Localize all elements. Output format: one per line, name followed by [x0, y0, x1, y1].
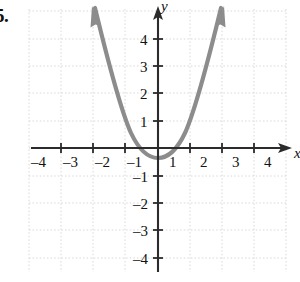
x-tick-label-4: 4: [264, 155, 272, 170]
x-tick-label--1: –1: [127, 155, 142, 170]
y-tick-label-1: 1: [140, 115, 148, 130]
x-tick-label--3: –3: [63, 155, 78, 170]
y-tick-label--4: –4: [133, 252, 148, 267]
figure-container: 5.: [0, 0, 300, 282]
y-tick-label--3: –3: [133, 224, 148, 239]
y-axis: [153, 6, 163, 272]
x-tick-label-2: 2: [200, 155, 208, 170]
y-tick-label-3: 3: [140, 60, 148, 75]
x-tick-label--4: –4: [31, 155, 46, 170]
x-axis-label: x: [294, 146, 300, 161]
y-tick-label-4: 4: [140, 33, 148, 48]
coordinate-plane: [0, 0, 300, 282]
x-tick-label-3: 3: [232, 155, 240, 170]
y-tick-label-2: 2: [140, 87, 148, 102]
y-axis-label: y: [161, 0, 168, 14]
x-axis: [31, 143, 292, 153]
x-tick-label--2: –2: [95, 155, 110, 170]
y-tick-label--2: –2: [133, 197, 148, 212]
x-tick-label-1: 1: [169, 155, 177, 170]
y-tick-label--1: –1: [133, 170, 148, 185]
